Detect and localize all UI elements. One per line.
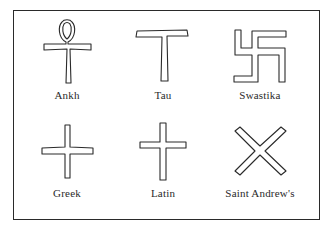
label-ankh: Ankh: [17, 89, 117, 101]
ankh-icon: [44, 20, 91, 83]
label-saint-andrews: Saint Andrew's: [210, 187, 310, 199]
tau-cross-icon: [136, 30, 188, 81]
label-tau: Tau: [113, 89, 213, 101]
latin-cross-icon: [140, 123, 186, 180]
label-swastika: Swastika: [210, 89, 310, 101]
swastika-icon: [234, 30, 286, 82]
label-latin: Latin: [113, 187, 213, 199]
greek-cross-icon: [42, 125, 93, 178]
label-greek: Greek: [17, 187, 117, 199]
saint-andrews-cross-icon: [235, 127, 286, 175]
